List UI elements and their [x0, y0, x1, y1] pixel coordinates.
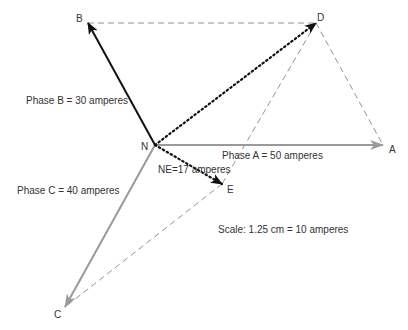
point-label-n: N	[141, 141, 148, 152]
vector-phase-c	[65, 145, 155, 307]
label-phase-c: Phase C = 40 amperes	[17, 185, 120, 196]
point-label-e: E	[227, 184, 234, 195]
point-label-d: D	[317, 12, 324, 23]
point-label-a: A	[389, 144, 396, 155]
scale-note: Scale: 1.25 cm = 10 amperes	[218, 224, 348, 235]
phasor-diagram: B D N A E C Phase B = 30 amperes Phase A…	[0, 0, 408, 330]
construction-line-d-a	[316, 23, 383, 145]
construction-line-e-c	[65, 184, 222, 307]
point-label-b: B	[76, 13, 83, 24]
point-label-c: C	[54, 309, 61, 320]
label-phase-b: Phase B = 30 amperes	[26, 95, 128, 106]
label-phase-a: Phase A = 50 amperes	[222, 150, 323, 161]
label-ne: NE=17 amperes	[158, 164, 231, 175]
vector-nd	[155, 23, 316, 145]
vector-phase-b	[88, 23, 155, 145]
